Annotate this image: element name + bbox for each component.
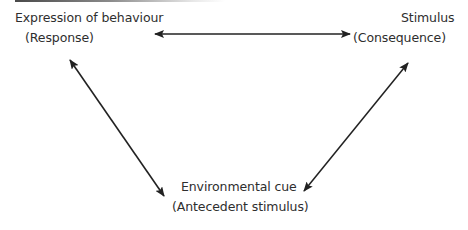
arrow-response-antecedent [70,60,164,196]
arrow-consequence-antecedent [304,63,408,191]
arrows-layer [0,0,468,230]
